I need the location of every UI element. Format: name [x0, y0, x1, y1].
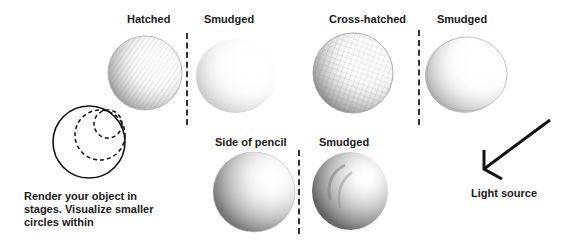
- sphere-cross-hatched: [313, 33, 393, 113]
- sphere-smudged-3: [312, 152, 388, 230]
- sphere-smudged-1: [196, 39, 276, 113]
- outer-circle: [53, 106, 125, 178]
- sphere-side-of-pencil: [213, 152, 295, 232]
- sphere-hatched: [108, 36, 182, 110]
- light-source-arrow-icon: [484, 120, 550, 179]
- illustration-canvas: [0, 0, 568, 246]
- inner-dashed-circle: [94, 110, 122, 138]
- construction-circles-diagram: [53, 106, 125, 178]
- sphere-smudged-2: [425, 37, 507, 113]
